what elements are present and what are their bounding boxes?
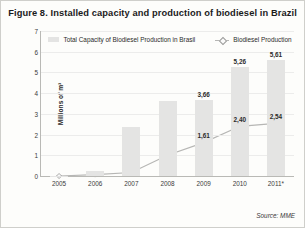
y-axis-tick: 3 (34, 110, 38, 117)
bar-value-label: 3,66 (197, 91, 209, 98)
x-axis-tick: 2008 (160, 180, 174, 187)
figure-card: Figure 8. Installed capacity and product… (0, 0, 305, 228)
y-axis-tick: 2 (34, 131, 38, 138)
figure-title: Figure 8. Installed capacity and product… (1, 8, 304, 18)
line-value-label: 2,40 (234, 116, 246, 123)
gridline (41, 52, 294, 53)
bar (86, 171, 104, 176)
line-value-label: 1,61 (197, 132, 209, 139)
y-axis-tick: 1 (34, 152, 38, 159)
x-axis-tick: 2005 (52, 180, 66, 187)
y-axis-tick: 7 (34, 28, 38, 35)
y-axis-tick: 5 (34, 69, 38, 76)
x-axis-tick: 2007 (124, 180, 138, 187)
x-axis-tick: 2010 (233, 180, 247, 187)
gridline (41, 93, 294, 94)
plot-area: Total Capacity of Biodiesel Production i… (10, 27, 298, 205)
bar (122, 127, 140, 176)
x-axis-tick: 2006 (88, 180, 102, 187)
x-axis-tick: 2011* (268, 180, 284, 187)
chart-axes: Millions of m³ 0123456720052006200720082… (40, 31, 294, 177)
x-axis-tick: 2009 (197, 180, 211, 187)
source-note: Source: MME (256, 212, 295, 219)
y-axis-tick: 6 (34, 48, 38, 55)
gridline (41, 176, 294, 177)
y-axis-tick: 4 (34, 90, 38, 97)
bar-value-label: 5,26 (234, 58, 246, 65)
bar-value-label: 5,61 (270, 51, 282, 58)
bar (158, 101, 176, 176)
y-axis-tick: 0 (34, 173, 38, 180)
line-value-label: 2,54 (270, 113, 282, 120)
gridline (41, 31, 294, 32)
gridline (41, 72, 294, 73)
